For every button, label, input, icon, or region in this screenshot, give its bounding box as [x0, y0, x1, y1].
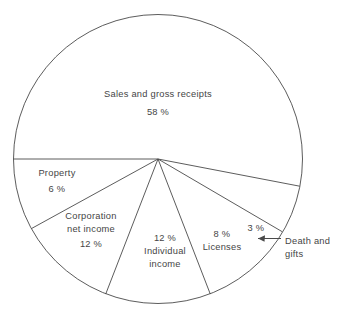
slice-label-deathgifts-pct: 3 %	[243, 222, 269, 235]
slice-divider-individual-licenses	[158, 159, 210, 294]
deathgifts-arrow-icon	[258, 235, 265, 242]
slice-label-individual-line2: income	[128, 258, 202, 271]
slice-label-deathgifts: Death and gifts	[285, 235, 340, 261]
slice-label-deathgifts-line1: Death and	[285, 235, 340, 248]
slice-label-property-pct: 6 %	[22, 183, 92, 196]
pie-chart: Sales and gross receipts 58 % Property 6…	[0, 0, 340, 318]
slice-label-corporation-line1: Corporation	[48, 210, 134, 223]
slice-label-sales-name: Sales and gross receipts	[63, 88, 253, 101]
slice-divider-licenses-deathgifts	[158, 159, 282, 232]
slice-label-corporation-line2: net income	[48, 223, 134, 236]
slice-label-licenses-name: Licenses	[190, 241, 254, 254]
slice-label-sales-pct: 58 %	[63, 106, 253, 119]
slice-label-deathgifts-pct-wrap: 3 %	[243, 222, 269, 235]
slice-label-sales: Sales and gross receipts 58 %	[63, 88, 253, 119]
slice-label-corporation-pct: 12 %	[48, 238, 134, 251]
slice-label-deathgifts-line2: gifts	[285, 248, 340, 261]
slice-label-property: Property 6 %	[22, 167, 92, 196]
slice-label-corporation: Corporation net income 12 %	[48, 210, 134, 251]
slice-divider-deathgifts-sales	[158, 159, 300, 186]
slice-label-property-name: Property	[22, 167, 92, 180]
